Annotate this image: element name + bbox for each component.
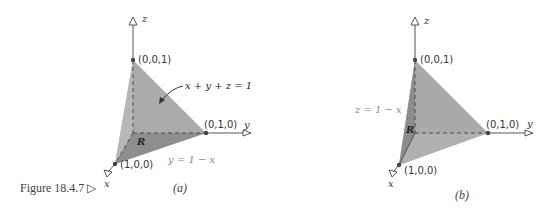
point-010-label: (0,1,0) — [204, 119, 237, 130]
z-axis-arrow-icon — [129, 17, 137, 25]
y-axis-label: y — [526, 118, 533, 129]
panel-a: z y x (0,0,1) (0,1,0) (1,0,0) x + y + z … — [20, 13, 252, 195]
x-axis-arrow-icon — [104, 170, 112, 177]
point-010 — [204, 131, 208, 135]
y-axis-label: y — [243, 119, 250, 130]
point-001-label: (0,0,1) — [138, 54, 171, 65]
boundary-equation-label: z = 1 − x — [354, 104, 402, 115]
point-001 — [413, 58, 417, 62]
panel-a-label: (a) — [173, 181, 187, 195]
point-100-label: (1,0,0) — [404, 165, 437, 176]
point-100-label: (1,0,0) — [120, 159, 153, 170]
y-axis-arrow-icon — [243, 130, 251, 136]
figure-canvas: z y x (0,0,1) (0,1,0) (1,0,0) x + y + z … — [0, 0, 557, 210]
region-R-label: R — [136, 136, 145, 147]
point-001-label: (0,0,1) — [420, 54, 453, 65]
panel-b-label: (b) — [455, 188, 469, 202]
z-axis-arrow-icon — [411, 17, 419, 25]
point-100 — [397, 163, 401, 167]
y-axis-arrow-icon — [525, 130, 533, 136]
point-010-label: (0,1,0) — [486, 119, 519, 130]
boundary-equation-label: y = 1 − x — [167, 154, 215, 165]
x-axis-arrow-icon — [389, 170, 397, 177]
point-100 — [113, 162, 117, 166]
z-axis-label: z — [141, 13, 148, 24]
z-axis-label: z — [423, 15, 430, 26]
x-axis-label: x — [388, 178, 394, 189]
panel-b: z y x (0,0,1) (0,1,0) (1,0,0) R z = 1 − … — [354, 15, 533, 202]
point-001 — [131, 58, 135, 62]
figure-caption: Figure 18.4.7 ▷ — [20, 181, 97, 195]
region-R-label: R — [405, 124, 414, 135]
point-010 — [486, 131, 490, 135]
plane-equation-label: x + y + z = 1 — [185, 80, 252, 91]
x-axis-label: x — [104, 178, 110, 189]
